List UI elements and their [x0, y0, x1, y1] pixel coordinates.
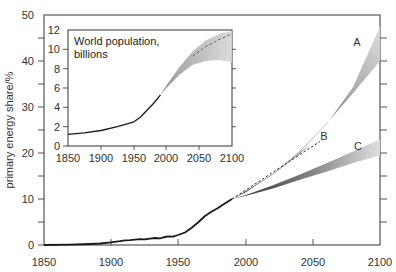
x-tick-2050: 2050 — [301, 256, 325, 268]
x-tick-2100: 2100 — [368, 256, 392, 268]
inset-title-line-1: World population, — [74, 35, 159, 47]
main-y-axis — [38, 38, 44, 245]
inset-y-tick-labels: 0 2 4 6 8 10 12 — [48, 24, 60, 152]
y-tick-10: 10 — [22, 193, 34, 205]
inset-y-axis-right — [232, 49, 236, 126]
inset-x-tick-2100: 2100 — [220, 152, 244, 164]
x-tick-1850: 1850 — [32, 256, 56, 268]
inset-y-tick-10: 10 — [48, 43, 60, 55]
y-tick-40: 40 — [22, 55, 34, 67]
inset-x-tick-1850: 1850 — [56, 152, 80, 164]
inset-x-tick-1950: 1950 — [122, 152, 146, 164]
y-tick-50: 50 — [22, 9, 34, 21]
main-historical-line — [44, 199, 232, 245]
inset-x-tick-2050: 2050 — [187, 152, 211, 164]
inset-title-line-2: billions — [74, 48, 108, 60]
y-tick-0: 0 — [28, 239, 34, 251]
series-a-label: A — [353, 36, 361, 48]
inset-y-tick-12: 12 — [48, 24, 60, 36]
x-tick-1900: 1900 — [99, 256, 123, 268]
inset-x-tick-labels: 1850 1900 1950 2000 2050 2100 — [56, 152, 244, 164]
series-b-line — [232, 142, 320, 200]
series-b-label: B — [320, 130, 327, 142]
inset-x-axis — [101, 146, 199, 150]
inset-x-tick-1900: 1900 — [89, 152, 113, 164]
inset-y-axis — [63, 49, 68, 146]
inset-plot: 0 2 4 6 8 10 12 1850 1900 1950 2000 2050… — [48, 24, 244, 164]
inset-x-tick-2000: 2000 — [154, 152, 178, 164]
main-x-tick-labels: 1850 1900 1950 2000 2050 2100 — [32, 256, 392, 268]
inset-y-tick-6: 6 — [54, 82, 60, 94]
chart-canvas: 0 10 20 30 40 50 1850 1900 1950 2000 205… — [0, 0, 396, 272]
main-y-tick-labels: 0 10 20 30 40 50 — [22, 9, 34, 251]
x-tick-2000: 2000 — [234, 256, 258, 268]
inset-y-tick-4: 4 — [54, 101, 60, 113]
inset-y-tick-2: 2 — [54, 121, 60, 133]
inset-y-tick-8: 8 — [54, 63, 60, 75]
inset-y-tick-0: 0 — [54, 140, 60, 152]
y-axis-title: primary energy share/% — [3, 71, 15, 188]
y-tick-30: 30 — [22, 101, 34, 113]
y-tick-20: 20 — [22, 147, 34, 159]
main-y-axis-right — [380, 38, 387, 222]
series-c-label: C — [354, 140, 362, 152]
x-tick-1950: 1950 — [166, 256, 190, 268]
